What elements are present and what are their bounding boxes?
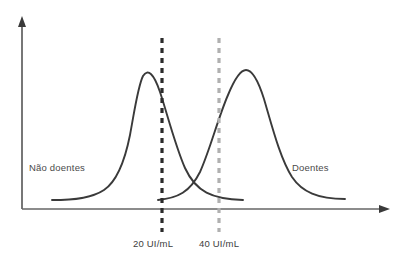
distribution-figure: Não doentes Doentes 20 UI/mL 40 UI/mL	[0, 0, 399, 262]
curve-label-doentes: Doentes	[292, 162, 329, 173]
horizontal-axis-arrow-icon	[379, 205, 390, 213]
curve-label-nao-doentes: Não doentes	[29, 162, 85, 173]
curve-nao-doentes	[52, 73, 243, 200]
threshold-label-40: 40 UI/mL	[199, 238, 239, 249]
plot-area	[0, 0, 399, 262]
vertical-axis	[18, 16, 26, 209]
threshold-label-20: 20 UI/mL	[133, 238, 173, 249]
horizontal-axis	[22, 205, 390, 213]
vertical-axis-arrow-icon	[18, 16, 26, 27]
curve-doentes	[158, 70, 345, 200]
